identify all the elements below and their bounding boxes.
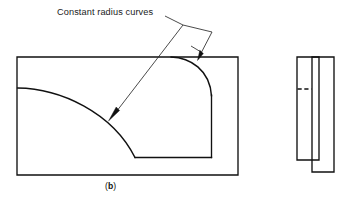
figure-caption: (b) — [105, 181, 116, 191]
side-view-left-rectangle — [297, 57, 319, 160]
annotation-leader — [109, 16, 213, 121]
leader-branch-to-sweep — [113, 25, 183, 116]
caption-suffix: ) — [113, 181, 116, 191]
arrow-to-sweep-icon — [109, 107, 120, 121]
technical-drawing-figure: Constant radius curves (b) — [0, 0, 348, 202]
fillet-curve-top-right — [171, 57, 212, 96]
figure-canvas: Constant radius curves (b) — [0, 0, 348, 202]
arrow-to-fillet-icon — [198, 50, 204, 60]
sweep-curve-large — [18, 88, 136, 158]
side-view-right-rectangle — [312, 57, 334, 172]
front-view — [17, 57, 238, 175]
leader-quad-upper-edge — [183, 25, 212, 32]
leader-tail — [165, 16, 183, 25]
annotation-label: Constant radius curves — [57, 7, 153, 17]
side-view — [297, 57, 334, 172]
